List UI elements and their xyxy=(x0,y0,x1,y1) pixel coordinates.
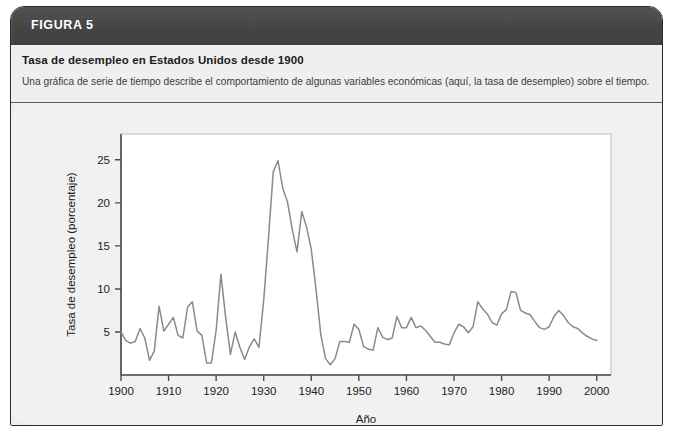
x-tick-label: 1940 xyxy=(298,385,324,397)
figure-plot-panel: 5101520251900191019201930194019501960197… xyxy=(11,104,662,425)
figure-header-bar: FIGURA 5 xyxy=(11,7,662,45)
x-axis-title: Año xyxy=(356,413,376,425)
y-axis-title: Tasa de desempleo (porcentaje) xyxy=(65,172,77,336)
x-tick-label: 2000 xyxy=(584,385,610,397)
figure-title: Tasa de desempleo en Estados Unidos desd… xyxy=(22,54,304,66)
figure-container: FIGURA 5 Tasa de desempleo en Estados Un… xyxy=(10,6,663,426)
figure-subtitle: Una gráfica de serie de tiempo describe … xyxy=(22,75,650,88)
y-tick-label: 15 xyxy=(97,240,110,252)
y-tick-label: 10 xyxy=(97,283,110,295)
x-tick-label: 1960 xyxy=(394,385,420,397)
y-tick-label: 20 xyxy=(97,197,110,209)
x-tick-label: 1980 xyxy=(489,385,515,397)
y-tick-label: 5 xyxy=(104,326,110,338)
x-tick-label: 1920 xyxy=(203,385,229,397)
x-tick-label: 1900 xyxy=(108,385,134,397)
x-tick-label: 1930 xyxy=(251,385,277,397)
plot-background xyxy=(121,134,611,375)
x-tick-label: 1970 xyxy=(441,385,467,397)
x-tick-label: 1910 xyxy=(156,385,182,397)
figure-number-label: FIGURA 5 xyxy=(31,18,94,32)
x-tick-label: 1950 xyxy=(346,385,372,397)
chart-stage: 5101520251900191019201930194019501960197… xyxy=(11,104,663,426)
x-tick-label: 1990 xyxy=(536,385,562,397)
y-tick-label: 25 xyxy=(97,154,110,166)
figure-caption-block: Tasa de desempleo en Estados Unidos desd… xyxy=(11,45,662,103)
timeseries-chart: 5101520251900191019201930194019501960197… xyxy=(11,104,663,426)
